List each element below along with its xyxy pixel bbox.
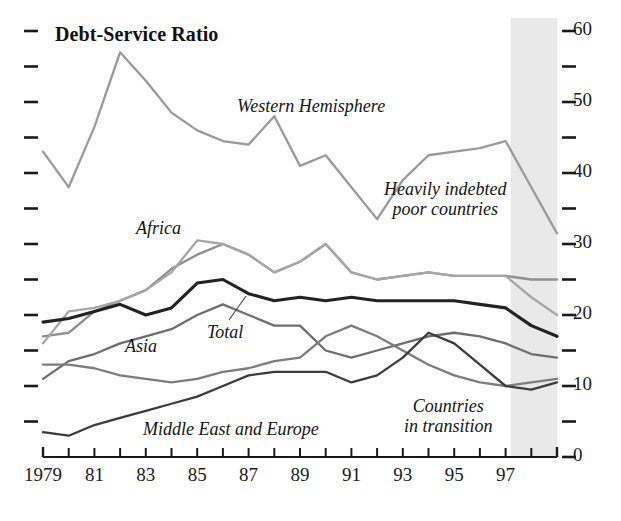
x-axis-label: 87 [239, 464, 258, 486]
series-label-middle-east-and-europe: Middle East and Europe [143, 419, 319, 439]
series-label-africa: Africa [136, 218, 181, 238]
chart-plot-area [0, 0, 621, 521]
x-axis-label: 81 [85, 464, 104, 486]
x-axis-label: 95 [445, 464, 464, 486]
y-axis-label: 40 [573, 160, 592, 182]
series-label-countries-in-transition-line1: Countries [413, 396, 484, 416]
series-label-heavily-indebted-poor-countries: Heavily indebted poor countries [384, 179, 506, 219]
page-title: Debt-Service Ratio [55, 23, 218, 46]
y-axis-label: 10 [573, 373, 592, 395]
x-axis-label: 89 [291, 464, 310, 486]
series-label-heavily-indebted-line2: poor countries [392, 199, 498, 219]
series-label-total: Total [207, 322, 243, 342]
forecast-band-rect [511, 18, 557, 457]
y-axis-label: 60 [573, 18, 592, 40]
x-axis-label: 91 [342, 464, 361, 486]
x-axis-label: 93 [393, 464, 412, 486]
x-axis-label: 83 [136, 464, 155, 486]
x-axis-label: 85 [188, 464, 207, 486]
y-axis-label: 50 [573, 89, 592, 111]
forecast-shaded-band [511, 18, 557, 457]
series-label-asia: Asia [125, 336, 157, 356]
y-axis-label: 30 [573, 231, 592, 253]
x-axis-label: 1979 [24, 464, 62, 486]
y-axis-label: 0 [573, 444, 583, 466]
y-axis-label: 20 [573, 302, 592, 324]
series-label-heavily-indebted-line1: Heavily indebted [384, 179, 506, 199]
series-label-countries-in-transition-line2: in transition [404, 416, 493, 436]
x-axis-label: 97 [496, 464, 515, 486]
debt-service-ratio-chart: Debt-Service Ratio Western Hemisphere He… [0, 0, 621, 521]
series-label-western-hemisphere: Western Hemisphere [237, 96, 385, 116]
series-label-countries-in-transition: Countries in transition [404, 396, 493, 436]
x-axis [43, 447, 557, 457]
